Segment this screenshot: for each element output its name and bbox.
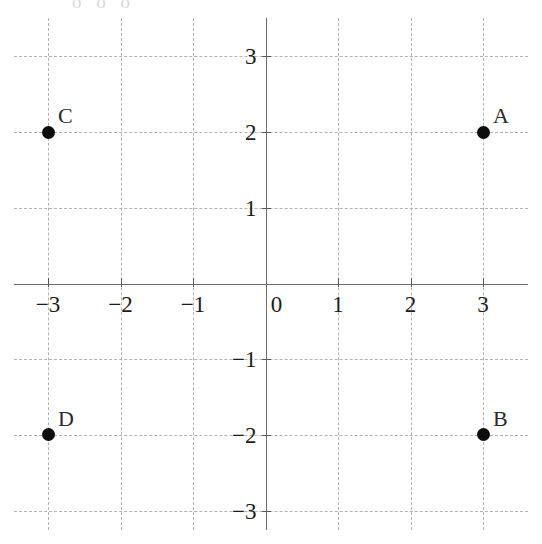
plot-area: −3−2−10123321−1−2−3ABCD xyxy=(0,0,542,544)
y-axis-tick-label: −2 xyxy=(232,423,256,446)
data-point-d[interactable] xyxy=(42,428,55,441)
gridline-vertical xyxy=(48,18,49,530)
gridline-vertical xyxy=(193,18,194,530)
x-axis-tick-label: 2 xyxy=(405,293,417,316)
x-axis-tick xyxy=(193,278,194,287)
y-axis-tick xyxy=(262,56,271,57)
gridline-horizontal xyxy=(14,132,528,133)
y-axis-tick-label: 3 xyxy=(245,45,257,68)
data-point-c[interactable] xyxy=(42,126,55,139)
gridline-vertical xyxy=(411,18,412,530)
x-axis-tick-label: −1 xyxy=(181,293,205,316)
gridline-horizontal xyxy=(14,511,528,512)
y-axis-tick xyxy=(262,511,271,512)
gridline-vertical xyxy=(338,18,339,530)
x-axis-tick xyxy=(121,278,122,287)
y-axis-tick-label: 2 xyxy=(245,121,257,144)
data-point-label-b: B xyxy=(493,408,508,430)
gridline-horizontal xyxy=(14,56,528,57)
gridline-vertical xyxy=(483,18,484,530)
y-axis xyxy=(266,18,267,530)
data-point-label-c: C xyxy=(58,105,73,127)
x-axis-tick-label: 0 xyxy=(271,293,283,316)
data-point-label-d: D xyxy=(58,408,74,430)
data-point-a[interactable] xyxy=(477,126,490,139)
data-point-label-a: A xyxy=(493,105,509,127)
coordinate-plane-figure: o o o −3−2−10123321−1−2−3ABCD xyxy=(0,0,542,544)
y-axis-tick xyxy=(262,359,271,360)
gridline-horizontal xyxy=(14,359,528,360)
x-axis-tick xyxy=(338,278,339,287)
gridline-horizontal xyxy=(14,435,528,436)
y-axis-tick xyxy=(262,132,271,133)
gridline-vertical xyxy=(121,18,122,530)
y-axis-tick xyxy=(262,208,271,209)
x-axis-tick-label: −2 xyxy=(108,293,132,316)
x-axis xyxy=(14,284,528,285)
x-axis-tick xyxy=(48,278,49,287)
x-axis-tick-label: −3 xyxy=(36,293,60,316)
y-axis-tick-label: −1 xyxy=(232,348,256,371)
gridline-horizontal xyxy=(14,208,528,209)
x-axis-tick-label: 1 xyxy=(332,293,344,316)
data-point-b[interactable] xyxy=(477,428,490,441)
y-axis-tick-label: −3 xyxy=(232,499,256,522)
x-axis-tick xyxy=(483,278,484,287)
y-axis-tick-label: 1 xyxy=(245,196,257,219)
x-axis-tick xyxy=(411,278,412,287)
y-axis-tick xyxy=(262,435,271,436)
x-axis-tick-label: 3 xyxy=(477,293,489,316)
